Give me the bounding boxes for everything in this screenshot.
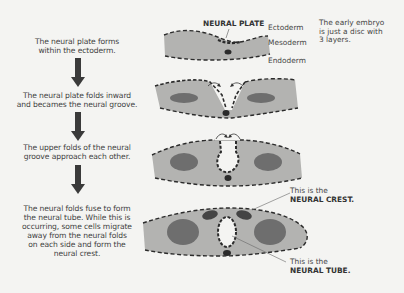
neural-tube-name: NEURAL TUBE. xyxy=(290,267,350,276)
neural-tube-callout: This is the NEURAL TUBE. xyxy=(290,258,350,275)
stage-1-embryo-disc xyxy=(164,29,270,60)
neural-crest-name: NEURAL CREST. xyxy=(290,196,354,205)
embryo-note: The early embryo is just a disc with 3 l… xyxy=(319,19,384,45)
neural-crest-callout: This is the NEURAL CREST. xyxy=(290,187,354,204)
ectoderm-label: Ectoderm xyxy=(268,24,304,33)
embryo-note-line-3: 3 layers. xyxy=(319,36,384,45)
stage-4-neural-tube xyxy=(143,193,307,262)
endoderm-label: Endoderm xyxy=(268,57,306,66)
mesoderm-label: Mesoderm xyxy=(268,39,307,48)
stage-2-neural-groove xyxy=(155,79,298,118)
neural-plate-label: NEURAL PLATE xyxy=(203,20,264,29)
stage-3-folds-approaching xyxy=(152,134,302,186)
